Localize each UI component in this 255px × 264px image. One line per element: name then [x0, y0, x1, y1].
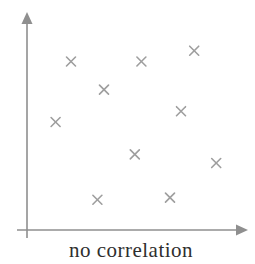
x-axis — [17, 225, 248, 236]
chart-caption: no correlation — [0, 238, 255, 263]
data-points-group — [51, 46, 221, 204]
data-point-marker — [93, 195, 102, 204]
data-point-marker — [100, 85, 109, 94]
scatter-plot — [0, 0, 255, 240]
scatter-figure: no correlation — [0, 0, 255, 264]
data-point-marker — [212, 159, 221, 168]
data-point-marker — [137, 57, 146, 66]
data-point-marker — [51, 118, 60, 127]
data-point-marker — [190, 46, 199, 55]
data-point-marker — [166, 193, 175, 202]
data-point-marker — [67, 57, 76, 66]
data-point-marker — [177, 107, 186, 116]
x-axis-arrowhead-icon — [236, 225, 248, 236]
y-axis — [22, 12, 33, 238]
data-point-marker — [130, 150, 139, 159]
y-axis-arrowhead-icon — [22, 12, 33, 24]
